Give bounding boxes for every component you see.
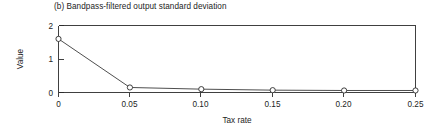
x-tick-label-3: 0.15 — [265, 100, 281, 109]
y-tick-label-0: 0 — [48, 89, 53, 98]
x-axis-title: Tax rate — [222, 116, 252, 125]
y-tick-label-1: 1 — [48, 55, 53, 64]
data-point-marker — [270, 88, 275, 93]
axis-frame — [59, 26, 416, 93]
x-tick-label-0: 0 — [56, 100, 61, 109]
x-tick-label-1: 0.05 — [122, 100, 138, 109]
chart-figure: (b) Bandpass-filtered output standard de… — [0, 0, 448, 132]
x-tickmarks — [59, 93, 416, 98]
data-point-marker — [342, 88, 347, 93]
y-axis-title: Value — [16, 48, 25, 69]
data-point-marker — [199, 87, 204, 92]
x-tick-label-4: 0.20 — [336, 100, 352, 109]
series-line-0 — [59, 39, 416, 91]
data-point-marker — [127, 85, 132, 90]
data-series — [56, 36, 418, 93]
x-tick-label-5: 0.25 — [408, 100, 424, 109]
data-point-marker — [56, 36, 61, 41]
plot-area: 2 1 0 0 0.05 0.10 0.15 0.20 0.25 Tax rat… — [0, 0, 448, 132]
y-tick-label-2: 2 — [48, 22, 53, 31]
y-tickmarks — [59, 26, 64, 93]
data-point-marker — [413, 88, 418, 93]
x-tick-label-2: 0.10 — [193, 100, 209, 109]
